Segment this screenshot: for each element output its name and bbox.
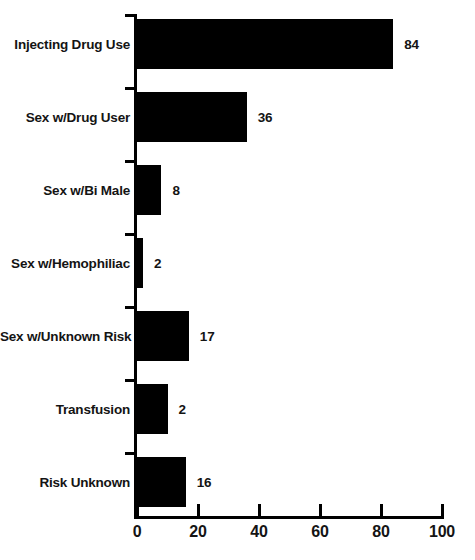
x-axis-line: [134, 516, 444, 519]
category-label: Injecting Drug Use: [0, 36, 130, 51]
plot-area: Injecting Drug Use84Sex w/Drug User36Sex…: [0, 0, 475, 560]
bar-row: Sex w/Drug User36: [0, 80, 475, 153]
category-label: Sex w/Unknown Risk: [0, 328, 130, 343]
x-axis-tick-label: 40: [229, 523, 289, 541]
bar-row: Sex w/Hemophiliac2: [0, 226, 475, 299]
bar: [137, 238, 143, 288]
y-axis-tick: [125, 233, 136, 236]
category-label: Sex w/Bi Male: [0, 182, 130, 197]
x-axis-tick-label: 100: [412, 523, 472, 541]
x-axis-tick: [258, 504, 261, 517]
bar-row: Risk Unknown16: [0, 445, 475, 518]
x-axis-tick: [441, 504, 444, 517]
category-label: Transfusion: [0, 401, 130, 416]
category-label: Risk Unknown: [0, 474, 130, 489]
y-axis-tick: [125, 306, 136, 309]
y-axis-tick: [125, 379, 136, 382]
x-axis-tick: [197, 504, 200, 517]
x-axis-tick: [136, 504, 139, 517]
y-axis-tick: [125, 452, 136, 455]
bar: [137, 311, 189, 361]
x-axis-tick: [319, 504, 322, 517]
bar-chart: Injecting Drug Use84Sex w/Drug User36Sex…: [0, 0, 475, 560]
bar-row: Sex w/Bi Male8: [0, 153, 475, 226]
bar-row: Sex w/Unknown Risk17: [0, 299, 475, 372]
bar: [137, 384, 168, 434]
bar-value-label: 84: [404, 36, 419, 51]
y-axis-tick: [125, 160, 136, 163]
bar-value-label: 8: [172, 182, 179, 197]
x-axis-tick: [380, 504, 383, 517]
bar-value-label: 17: [200, 328, 215, 343]
x-axis-tick-label: 0: [107, 523, 167, 541]
bar: [137, 92, 247, 142]
category-label: Sex w/Drug User: [0, 109, 130, 124]
x-axis-tick-label: 20: [168, 523, 228, 541]
x-axis-tick-label: 60: [290, 523, 350, 541]
bar-value-label: 16: [197, 474, 212, 489]
bar: [137, 457, 186, 507]
x-axis-tick-label: 80: [351, 523, 411, 541]
bar: [137, 165, 161, 215]
bar-row: Injecting Drug Use84: [0, 7, 475, 80]
bar-row: Transfusion2: [0, 372, 475, 445]
y-axis-tick: [125, 87, 136, 90]
bar: [137, 19, 393, 69]
category-label: Sex w/Hemophiliac: [0, 255, 130, 270]
bar-value-label: 2: [179, 401, 186, 416]
bar-value-label: 2: [154, 255, 161, 270]
y-axis-tick: [125, 14, 136, 17]
bar-value-label: 36: [258, 109, 273, 124]
